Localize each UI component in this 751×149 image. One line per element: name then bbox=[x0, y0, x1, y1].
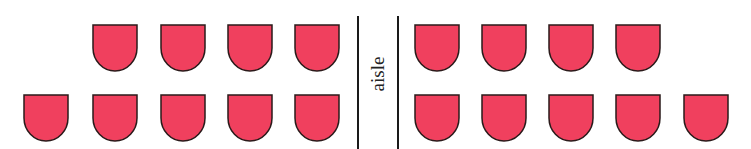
seat-right-back bbox=[683, 94, 729, 142]
aisle-right-divider bbox=[397, 16, 399, 149]
seat-left-front bbox=[294, 24, 340, 72]
aisle-label: aisle bbox=[367, 57, 389, 92]
seat-left-back bbox=[227, 94, 273, 142]
seat-left-back bbox=[160, 94, 206, 142]
seat-left-back bbox=[294, 94, 340, 142]
seat-right-front bbox=[548, 24, 594, 72]
seat-right-back bbox=[548, 94, 594, 142]
seat-right-front bbox=[615, 24, 661, 72]
seat-right-back bbox=[414, 94, 460, 142]
seat-right-front bbox=[481, 24, 527, 72]
seat-right-back bbox=[615, 94, 661, 142]
aisle-left-divider bbox=[357, 16, 359, 149]
seat-right-back bbox=[481, 94, 527, 142]
seat-left-back bbox=[23, 94, 69, 142]
seat-right-front bbox=[414, 24, 460, 72]
seat-left-back bbox=[92, 94, 138, 142]
seat-left-front bbox=[92, 24, 138, 72]
seat-left-front bbox=[160, 24, 206, 72]
seat-left-front bbox=[227, 24, 273, 72]
